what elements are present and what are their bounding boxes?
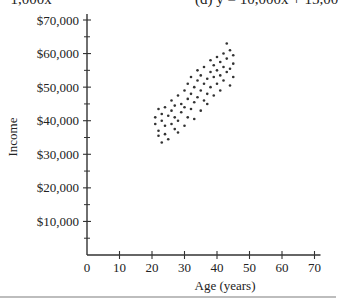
tick-labels: $10,000$20,000$30,000$40,000$50,000$60,0… [37, 13, 321, 276]
data-point [190, 93, 193, 96]
data-point [216, 82, 219, 85]
data-point [203, 99, 206, 102]
data-point [177, 94, 180, 97]
data-point [219, 74, 222, 77]
y-tick-label: $70,000 [37, 13, 79, 28]
data-point [212, 94, 215, 97]
data-point [193, 86, 196, 89]
data-point [199, 109, 202, 112]
data-point [196, 96, 199, 99]
data-point [225, 42, 228, 45]
data-point [229, 49, 232, 52]
data-point [160, 113, 163, 116]
data-point [196, 79, 199, 82]
data-point [219, 89, 222, 92]
data-point [229, 67, 232, 70]
data-point [157, 135, 160, 138]
y-axis-label: Income [5, 117, 20, 156]
data-point [154, 116, 157, 119]
data-point [186, 116, 189, 119]
data-point [183, 124, 186, 127]
data-point [177, 131, 180, 134]
axes [87, 14, 321, 255]
y-tick-label: $30,000 [37, 147, 79, 162]
data-point [180, 111, 183, 114]
data-point [167, 114, 170, 117]
data-point [154, 123, 157, 126]
y-tick-label: $20,000 [37, 180, 79, 195]
data-point [157, 108, 160, 111]
data-point [196, 69, 199, 72]
data-point [232, 62, 235, 65]
data-point [209, 59, 212, 62]
axis-ticks [83, 20, 315, 259]
y-tick-label: $10,000 [37, 214, 79, 229]
y-tick-label: $60,000 [37, 46, 79, 61]
data-point [173, 116, 176, 119]
data-points [154, 42, 235, 144]
data-point [157, 129, 160, 132]
data-point [206, 93, 209, 96]
data-point [232, 76, 235, 79]
data-point [190, 108, 193, 111]
data-point [177, 119, 180, 122]
data-point [209, 86, 212, 89]
data-point [222, 66, 225, 69]
data-point [229, 84, 232, 87]
data-point [206, 77, 209, 80]
data-point [186, 98, 189, 101]
y-tick-label: $50,000 [37, 80, 79, 95]
data-point [170, 99, 173, 102]
x-tick-label: 10 [113, 260, 126, 275]
data-point [232, 54, 235, 57]
x-tick-label: 70 [308, 260, 321, 275]
data-point [183, 106, 186, 109]
data-point [203, 66, 206, 69]
data-point [216, 56, 219, 59]
data-point [219, 61, 222, 64]
data-point [170, 123, 173, 126]
data-point [212, 76, 215, 79]
data-point [225, 57, 228, 60]
data-point [199, 74, 202, 77]
x-tick-label: 60 [276, 260, 289, 275]
data-point [186, 82, 189, 85]
x-tick-label: 0 [84, 260, 91, 275]
data-point [206, 103, 209, 106]
data-point [164, 124, 167, 127]
x-tick-label: 50 [243, 260, 256, 275]
data-point [199, 89, 202, 92]
data-point [193, 118, 196, 121]
bottom-divider [0, 296, 336, 298]
x-tick-label: 20 [146, 260, 159, 275]
x-tick-label: 30 [178, 260, 191, 275]
data-point [225, 71, 228, 74]
data-point [167, 138, 170, 141]
data-point [164, 106, 167, 109]
data-point [222, 79, 225, 82]
data-point [160, 119, 163, 122]
x-axis-label: Age (years) [195, 278, 256, 293]
data-point [160, 141, 163, 144]
data-point [170, 109, 173, 112]
data-point [203, 82, 206, 85]
data-point [193, 101, 196, 104]
data-point [209, 71, 212, 74]
data-point [173, 104, 176, 107]
y-tick-label: $40,000 [37, 113, 79, 128]
x-tick-label: 40 [211, 260, 224, 275]
data-point [173, 128, 176, 131]
data-point [212, 64, 215, 67]
data-point [164, 133, 167, 136]
data-point [180, 103, 183, 106]
data-point [222, 52, 225, 55]
data-point [190, 76, 193, 79]
data-point [183, 89, 186, 92]
data-point [216, 69, 219, 72]
